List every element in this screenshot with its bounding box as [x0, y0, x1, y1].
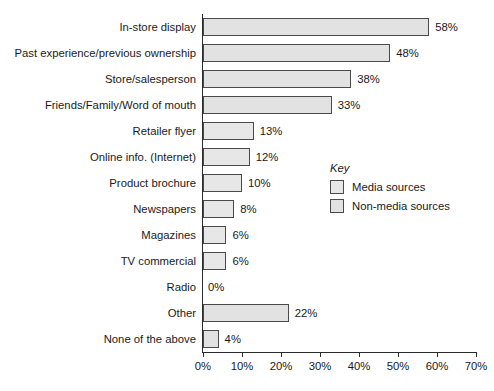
bar-value-label: 0%	[208, 281, 224, 293]
bar-row: In-store display58%	[0, 14, 494, 40]
plot-area: In-store display58%Past experience/previ…	[0, 0, 494, 391]
bar-container: 33%	[203, 92, 360, 118]
bar-row: Past experience/previous ownership48%	[0, 40, 494, 66]
bar-value-label: 33%	[338, 99, 361, 111]
bar-value-label: 22%	[295, 307, 318, 319]
bar-value-label: 58%	[435, 21, 458, 33]
bar-row: Magazines6%	[0, 222, 494, 248]
x-tick-label: 20%	[270, 360, 293, 372]
bar-value-label: 48%	[396, 47, 419, 59]
bar-media	[203, 122, 254, 140]
category-label: Retailer flyer	[0, 125, 196, 138]
bar-row: TV commercial6%	[0, 248, 494, 274]
bar-non-media	[203, 70, 351, 88]
x-tick	[203, 352, 204, 357]
x-tick-label: 70%	[465, 360, 488, 372]
bar-container: 48%	[203, 40, 419, 66]
bar-value-label: 6%	[232, 229, 248, 241]
bar-container: 6%	[203, 222, 249, 248]
bar-media	[203, 200, 234, 218]
x-tick	[437, 352, 438, 357]
bar-value-label: 6%	[232, 255, 248, 267]
bar-media	[203, 174, 242, 192]
category-label: Friends/Family/Word of mouth	[0, 99, 196, 112]
bar-value-label: 10%	[248, 177, 271, 189]
bar-row: Friends/Family/Word of mouth33%	[0, 92, 494, 118]
bar-container: 10%	[203, 170, 271, 196]
legend-item-non-media: Non-media sources	[330, 199, 450, 213]
category-label: TV commercial	[0, 255, 196, 268]
x-tick-label: 0%	[195, 360, 211, 372]
bar-container: 12%	[203, 144, 278, 170]
bar-non-media	[203, 304, 289, 322]
x-tick-label: 50%	[387, 360, 410, 372]
category-label: Online info. (Internet)	[0, 151, 196, 164]
legend-label-media: Media sources	[352, 181, 425, 193]
bar-container: 4%	[203, 326, 241, 352]
bar-value-label: 13%	[260, 125, 283, 137]
bar-media	[203, 226, 226, 244]
legend-swatch-media-icon	[330, 180, 344, 194]
bar-row: Retailer flyer13%	[0, 118, 494, 144]
bar-container: 13%	[203, 118, 282, 144]
x-tick	[359, 352, 360, 357]
bar-value-label: 38%	[357, 73, 380, 85]
x-tick-label: 60%	[426, 360, 449, 372]
bar-non-media	[203, 330, 219, 348]
category-label: Past experience/previous ownership	[0, 47, 196, 60]
bar-container: 58%	[203, 14, 458, 40]
legend-title: Key	[330, 162, 450, 174]
bar-container: 22%	[203, 300, 317, 326]
bar-container: 6%	[203, 248, 249, 274]
bar-chart: In-store display58%Past experience/previ…	[0, 0, 494, 391]
x-tick	[320, 352, 321, 357]
bar-media	[203, 148, 250, 166]
bar-row: Store/salesperson38%	[0, 66, 494, 92]
category-label: Magazines	[0, 229, 196, 242]
category-label: In-store display	[0, 21, 196, 34]
category-label: Radio	[0, 281, 196, 294]
x-axis-line	[202, 352, 476, 353]
category-label: None of the above	[0, 333, 196, 346]
x-tick	[242, 352, 243, 357]
category-label: Other	[0, 307, 196, 320]
chart-legend: Key Media sources Non-media sources	[330, 162, 450, 218]
bar-non-media	[203, 44, 390, 62]
bar-container: 0%	[203, 274, 224, 300]
x-tick	[281, 352, 282, 357]
bar-media	[203, 252, 226, 270]
legend-swatch-non-media-icon	[330, 199, 344, 213]
bar-container: 8%	[203, 196, 257, 222]
bar-value-label: 4%	[225, 333, 241, 345]
x-tick	[476, 352, 477, 357]
category-label: Newspapers	[0, 203, 196, 216]
bar-row: Radio0%	[0, 274, 494, 300]
bar-non-media	[203, 96, 332, 114]
x-tick-label: 40%	[348, 360, 371, 372]
bar-row: None of the above4%	[0, 326, 494, 352]
bar-value-label: 8%	[240, 203, 256, 215]
legend-item-media: Media sources	[330, 180, 450, 194]
category-label: Store/salesperson	[0, 73, 196, 86]
bar-non-media	[203, 18, 429, 36]
x-tick-label: 10%	[231, 360, 254, 372]
bar-row: Other22%	[0, 300, 494, 326]
bar-container: 38%	[203, 66, 380, 92]
category-label: Product brochure	[0, 177, 196, 190]
bar-value-label: 12%	[256, 151, 279, 163]
x-tick-label: 30%	[309, 360, 332, 372]
x-tick	[398, 352, 399, 357]
legend-label-non-media: Non-media sources	[352, 200, 450, 212]
